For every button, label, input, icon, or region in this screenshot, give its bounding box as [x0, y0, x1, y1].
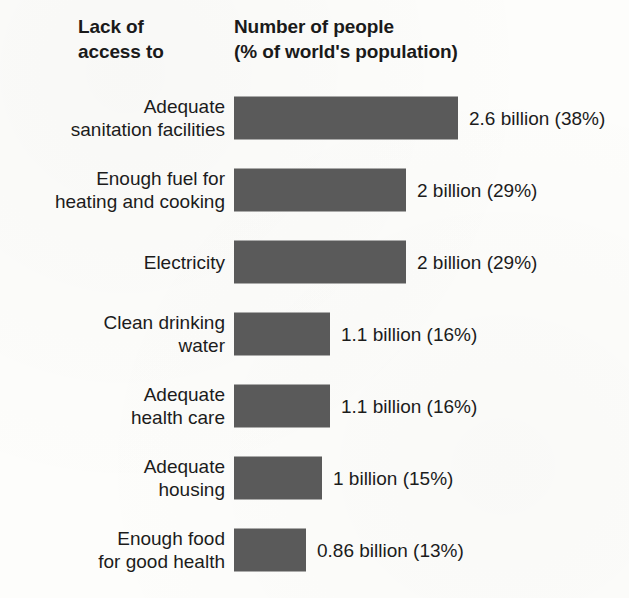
bar-value-label: 1 billion (15%) [333, 467, 453, 489]
row-label: Clean drinking water [104, 311, 225, 357]
row-label-line1: Enough fuel for [55, 167, 225, 190]
row-label-line1: Adequate [71, 95, 225, 118]
row-label-line1: Electricity [144, 251, 225, 274]
bar-group: 1 billion (15%) [234, 457, 453, 500]
table-row: Electricity 2 billion (29%) [0, 226, 629, 298]
bar-group: 1.1 billion (16%) [234, 313, 477, 356]
row-label-line2: water [104, 334, 225, 357]
row-label-line1: Adequate [131, 383, 225, 406]
row-label-line2: heating and cooking [55, 190, 225, 213]
bar-value-label: 0.86 billion (13%) [317, 539, 464, 561]
bar-value-label: 2.6 billion (38%) [469, 107, 605, 129]
row-label: Adequate sanitation facilities [71, 95, 225, 141]
bar-rows: Adequate sanitation facilities 2.6 billi… [0, 82, 629, 586]
bar [234, 169, 406, 212]
row-label-line2: housing [144, 478, 225, 501]
row-label: Adequate housing [144, 455, 225, 501]
row-label: Adequate health care [131, 383, 225, 429]
header-category-line2: access to [78, 39, 164, 64]
header-value-column: Number of people (% of world's populatio… [234, 14, 458, 64]
bar-group: 2 billion (29%) [234, 241, 537, 284]
bar-value-label: 2 billion (29%) [417, 251, 537, 273]
row-label: Enough food for good health [98, 527, 225, 573]
header-category-line1: Lack of [78, 14, 164, 39]
table-row: Enough fuel for heating and cooking 2 bi… [0, 154, 629, 226]
bar [234, 385, 330, 428]
bar-value-label: 2 billion (29%) [417, 179, 537, 201]
bar-group: 2 billion (29%) [234, 169, 537, 212]
bar-group: 0.86 billion (13%) [234, 529, 464, 572]
row-label: Electricity [144, 251, 225, 274]
row-label-line1: Enough food [98, 527, 225, 550]
bar [234, 457, 322, 500]
table-row: Adequate housing 1 billion (15%) [0, 442, 629, 514]
bar-group: 2.6 billion (38%) [234, 97, 605, 140]
row-label-line1: Adequate [144, 455, 225, 478]
bar [234, 97, 458, 140]
bar-chart: Lack of access to Number of people (% of… [0, 0, 629, 598]
table-row: Clean drinking water 1.1 billion (16%) [0, 298, 629, 370]
row-label-line2: for good health [98, 550, 225, 573]
bar [234, 241, 406, 284]
bar-value-label: 1.1 billion (16%) [341, 395, 477, 417]
header-category-column: Lack of access to [78, 14, 164, 64]
row-label-line2: sanitation facilities [71, 118, 225, 141]
bar [234, 529, 306, 572]
table-row: Adequate sanitation facilities 2.6 billi… [0, 82, 629, 154]
chart-header: Lack of access to Number of people (% of… [0, 14, 629, 76]
table-row: Adequate health care 1.1 billion (16%) [0, 370, 629, 442]
row-label-line1: Clean drinking [104, 311, 225, 334]
header-value-line1: Number of people [234, 14, 458, 39]
row-label-line2: health care [131, 406, 225, 429]
bar-group: 1.1 billion (16%) [234, 385, 477, 428]
bar-value-label: 1.1 billion (16%) [341, 323, 477, 345]
header-value-line2: (% of world's population) [234, 39, 458, 64]
table-row: Enough food for good health 0.86 billion… [0, 514, 629, 586]
bar [234, 313, 330, 356]
row-label: Enough fuel for heating and cooking [55, 167, 225, 213]
